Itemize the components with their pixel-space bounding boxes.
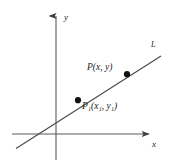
point-label-p: P(x, y) [87, 63, 112, 73]
y-axis-label: y [64, 13, 68, 22]
point-marker-p [124, 71, 130, 77]
coordinate-plane-figure: y x L P(x, y) P₁(x₁, y₁) [0, 0, 170, 165]
x-axis-label: x [152, 140, 156, 149]
line-label-L: L [151, 41, 155, 49]
figure-canvas [0, 0, 170, 165]
point-marker-p1 [75, 97, 81, 103]
point-label-p1: P₁(x₁, y₁) [82, 102, 117, 112]
